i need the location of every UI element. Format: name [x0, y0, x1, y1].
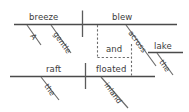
word-blew: blew — [112, 12, 132, 22]
word-and: and — [106, 44, 122, 54]
word-inland: inland — [102, 81, 123, 106]
word-gentle: gentle — [51, 30, 73, 56]
word-raft: raft — [46, 64, 62, 74]
word-across: across — [126, 29, 148, 54]
word-lake: lake — [154, 41, 172, 51]
diagram-svg: breeze blew A gentle across lake the and — [0, 0, 189, 112]
word-breeze: breeze — [29, 12, 58, 22]
word-floated: floated — [96, 64, 126, 74]
sentence-diagram-canvas: breeze blew A gentle across lake the and — [0, 0, 189, 112]
